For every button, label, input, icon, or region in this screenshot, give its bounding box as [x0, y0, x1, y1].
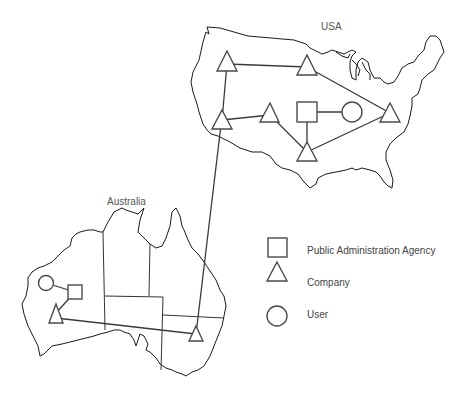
company-node-us-n[interactable] — [297, 55, 317, 75]
legend-label-agency: Public Administration Agency — [307, 245, 435, 256]
user-node-au[interactable] — [39, 276, 54, 291]
legend-circle-icon — [267, 306, 287, 326]
legend-label-user: User — [307, 309, 329, 320]
legend-triangle-icon — [267, 262, 287, 281]
great-lakes — [336, 52, 370, 80]
legend-square-icon — [268, 238, 287, 257]
user-node-us[interactable] — [342, 102, 362, 122]
company-node-us-nw[interactable] — [217, 51, 237, 71]
agency-node-us[interactable] — [297, 102, 317, 122]
links — [46, 64, 390, 334]
link — [56, 318, 196, 334]
company-node-us-e[interactable] — [380, 103, 400, 122]
agency-node-au[interactable] — [68, 285, 82, 299]
network-map-diagram: USA Australia Public Administration Agen… — [0, 0, 466, 394]
usa-label: USA — [321, 21, 342, 32]
company-node-us-mid[interactable] — [260, 103, 279, 122]
link — [227, 64, 307, 67]
legend: Public Administration Agency Company Use… — [267, 238, 435, 326]
legend-label-company: Company — [307, 277, 350, 288]
link — [196, 125, 221, 334]
australia-outline — [22, 208, 226, 376]
australia-label: Australia — [107, 196, 146, 207]
